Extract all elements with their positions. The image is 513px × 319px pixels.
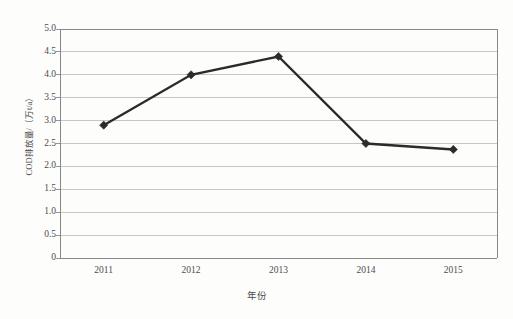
x-axis-tick-label: 2011 <box>74 265 134 275</box>
data-series-line <box>104 56 454 149</box>
data-point-marker <box>449 145 457 153</box>
x-axis-tick-label: 2013 <box>249 265 309 275</box>
x-axis-tick-label: 2015 <box>423 265 483 275</box>
x-axis-tick-label: 2014 <box>336 265 396 275</box>
x-axis-tick-label: 2012 <box>161 265 221 275</box>
figure-root: COD排放量/（万t/a） 5.04.54.03.53.02.52.01.51.… <box>0 0 513 319</box>
x-axis-title: 年份 <box>0 288 513 302</box>
